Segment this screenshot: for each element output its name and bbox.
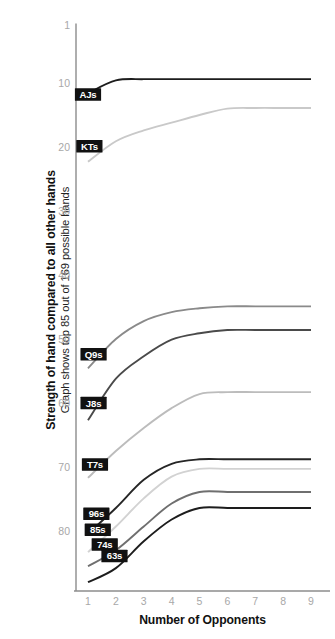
line-chart: 11020304050607080 123456789 AJsKTsQ9sJ8s… (0, 0, 335, 639)
x-tick-labels: 123456789 (85, 595, 314, 607)
series-label-t7s: T7s (82, 458, 108, 471)
x-tick-label: 2 (113, 595, 119, 607)
label-text: 63s (107, 550, 122, 561)
x-tick-label: 6 (224, 595, 230, 607)
y-tick-label: 40 (58, 269, 70, 281)
label-text: Q9s (85, 349, 103, 360)
label-text: J8s (86, 398, 101, 409)
series-line-63s (88, 507, 311, 582)
y-tick-label: 1 (64, 19, 70, 31)
y-tick-label: 80 (58, 525, 70, 537)
series-label-85s: 85s (85, 523, 111, 536)
x-axis-title: Number of Opponents (70, 613, 335, 627)
y-tick-labels: 11020304050607080 (58, 19, 70, 537)
y-tick-label: 30 (58, 205, 70, 217)
series-label-kts: KTs (76, 140, 102, 153)
series-labels: AJsKTsQ9sJ8sT7s96s85s74s63s (75, 88, 128, 562)
series-label-63s: 63s (101, 550, 127, 563)
plot-area: 11020304050607080 123456789 AJsKTsQ9sJ8s… (0, 0, 335, 639)
y-tick-label: 20 (58, 141, 70, 153)
label-text: 85s (90, 524, 105, 535)
series-line-kts (88, 108, 311, 162)
series-line-85s (88, 468, 311, 552)
series-label-ajs: AJs (75, 88, 101, 101)
series-line-q9s (88, 306, 311, 368)
series-line-96s (88, 459, 311, 534)
label-text: 74s (97, 539, 112, 550)
series-line-t7s (88, 392, 311, 478)
series-lines (88, 79, 311, 582)
x-tick-label: 7 (252, 595, 258, 607)
series-label-q9s: Q9s (80, 348, 106, 361)
x-tick-label: 3 (141, 595, 147, 607)
x-tick-label: 5 (197, 595, 203, 607)
x-tick-label: 8 (280, 595, 286, 607)
x-tick-label: 4 (169, 595, 175, 607)
y-tick-label: 60 (58, 397, 70, 409)
x-tick-label: 9 (308, 595, 314, 607)
label-text: AJs (80, 89, 97, 100)
series-label-j8s: J8s (80, 397, 106, 410)
y-tick-label: 70 (58, 461, 70, 473)
x-tick-label: 1 (85, 595, 91, 607)
y-tick-label: 50 (58, 333, 70, 345)
label-text: T7s (87, 459, 103, 470)
series-label-74s: 74s (92, 538, 118, 551)
chart-page: Strength of hand compared to all other h… (0, 0, 335, 639)
label-text: 96s (89, 508, 104, 519)
series-label-96s: 96s (83, 507, 109, 519)
label-text: KTs (81, 141, 98, 152)
series-line-j8s (88, 330, 311, 420)
series-line-ajs (88, 79, 311, 93)
y-tick-label: 10 (58, 77, 70, 89)
